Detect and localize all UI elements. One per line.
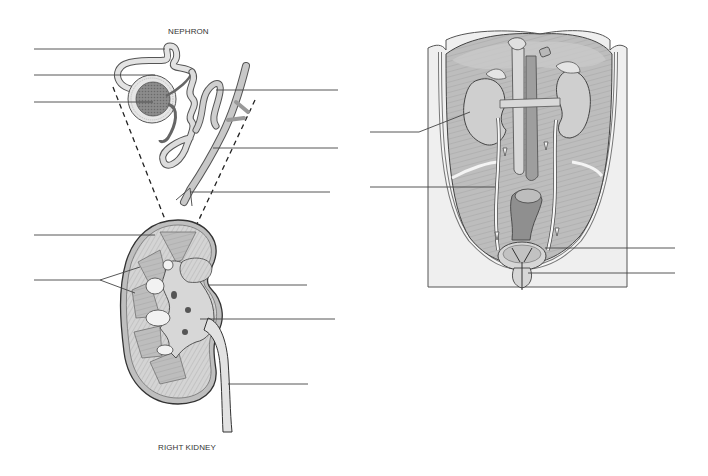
inferior-vena-cava bbox=[512, 48, 524, 175]
aorta bbox=[526, 56, 538, 181]
urinary-system-diagram bbox=[0, 0, 708, 476]
nephron-illustration bbox=[113, 46, 255, 226]
torso-illustration bbox=[428, 31, 627, 290]
glomerulus bbox=[136, 82, 170, 116]
right-kidney-illustration bbox=[121, 220, 233, 432]
